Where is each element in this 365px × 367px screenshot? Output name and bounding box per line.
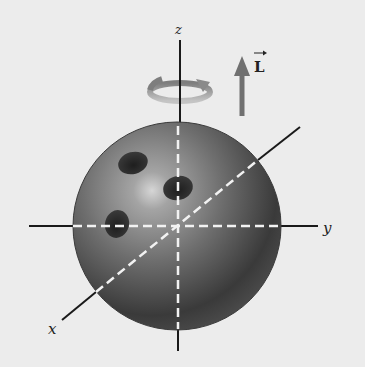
x-axis-outer (62, 292, 96, 320)
x-axis-label: x (48, 320, 57, 338)
angular-momentum-arrow-icon (234, 56, 250, 116)
rotating-bowling-ball-diagram: L z y x (0, 0, 365, 367)
y-axis-label: y (322, 219, 332, 237)
z-axis-label: z (174, 22, 182, 37)
L-vector-label: L (254, 58, 265, 76)
rotation-arrow-icon (150, 79, 210, 104)
x-axis-upper-outer (258, 127, 300, 160)
vector-arrow-overline-icon (254, 51, 267, 56)
